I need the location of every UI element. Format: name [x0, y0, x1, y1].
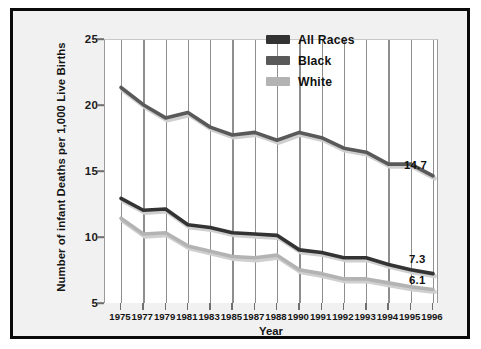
x-tick-mark — [209, 303, 210, 310]
x-tick-label: 1996 — [421, 311, 442, 322]
end-label-white: 6.1 — [409, 274, 425, 286]
x-tick-label: 1977 — [132, 311, 153, 322]
x-tick-label: 1991 — [310, 311, 331, 322]
x-tick-label: 1993 — [354, 311, 375, 322]
x-tick-label: 1994 — [377, 311, 398, 322]
x-axis-tick-marks — [104, 303, 438, 310]
legend-label: White — [298, 75, 332, 89]
x-tick-label: 1988 — [265, 311, 286, 322]
legend-swatch-icon — [266, 56, 290, 65]
x-tick-mark — [276, 303, 277, 310]
x-tick-label: 1983 — [198, 311, 219, 322]
y-axis-title: Number of infant Deaths per 1,000 Live B… — [55, 42, 67, 292]
x-tick-mark — [410, 303, 411, 310]
x-tick-mark — [120, 303, 121, 310]
x-tick-label: 1985 — [221, 311, 242, 322]
x-tick-label: 1981 — [176, 311, 197, 322]
x-tick-mark — [298, 303, 299, 310]
y-tick-mark — [97, 104, 104, 106]
y-tick-mark — [97, 302, 104, 304]
legend-item-black[interactable]: Black — [266, 51, 355, 70]
legend-label: Black — [298, 54, 332, 68]
legend-item-all-races[interactable]: All Races — [266, 30, 355, 49]
chart-legend: All RacesBlackWhite — [266, 30, 355, 93]
legend-swatch-icon — [266, 77, 290, 86]
x-tick-mark — [387, 303, 388, 310]
x-tick-mark — [432, 303, 433, 310]
x-tick-mark — [187, 303, 188, 310]
x-tick-label: 1975 — [109, 311, 130, 322]
y-tick-mark — [97, 38, 104, 40]
x-tick-label: 1992 — [332, 311, 353, 322]
series-line-white — [121, 218, 433, 289]
x-tick-mark — [343, 303, 344, 310]
legend-item-white[interactable]: White — [266, 72, 355, 91]
x-tick-mark — [321, 303, 322, 310]
end-label-black: 14.7 — [404, 159, 427, 171]
series-line-black — [121, 88, 433, 176]
x-axis-tick-labels: 1975197719791981198319851987198819901991… — [104, 311, 438, 324]
end-label-all-races: 7.3 — [409, 253, 425, 265]
y-tick-mark — [97, 170, 104, 172]
y-tick-mark — [97, 236, 104, 238]
x-tick-label: 1987 — [243, 311, 264, 322]
x-axis-title: Year — [104, 325, 438, 337]
chart-frame: Number of infant Deaths per 1,000 Live B… — [10, 8, 470, 339]
y-axis-tick-marks — [97, 39, 104, 303]
x-tick-label: 1990 — [288, 311, 309, 322]
legend-swatch-icon — [266, 35, 290, 44]
x-tick-label: 1979 — [154, 311, 175, 322]
x-tick-label: 1995 — [399, 311, 420, 322]
x-tick-mark — [254, 303, 255, 310]
x-tick-mark — [165, 303, 166, 310]
chart-canvas: Number of infant Deaths per 1,000 Live B… — [13, 11, 467, 336]
legend-label: All Races — [298, 33, 355, 47]
x-tick-mark — [142, 303, 143, 310]
x-tick-mark — [365, 303, 366, 310]
y-axis-tick-labels: 252015105 — [69, 39, 98, 303]
x-tick-mark — [231, 303, 232, 310]
